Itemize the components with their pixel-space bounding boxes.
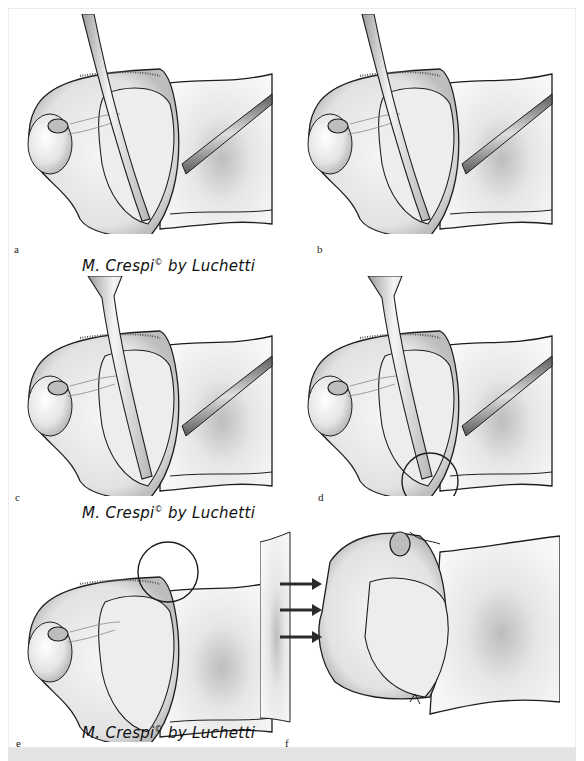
signature-row-2: M. Crespi© by Luchetti xyxy=(82,504,255,522)
signature-row-3: M. Crespi© by Luchetti xyxy=(82,724,255,742)
panel-e xyxy=(10,522,272,742)
sesamoid xyxy=(328,381,348,395)
copyright-mark: © xyxy=(155,505,163,514)
copyright-mark: © xyxy=(155,258,163,267)
illustration-b xyxy=(290,14,584,234)
panel-f xyxy=(260,522,522,742)
signature-name: M. Crespi xyxy=(82,504,155,522)
sesamoid xyxy=(48,381,68,395)
illustration-c xyxy=(10,276,310,496)
sesamoid xyxy=(328,119,348,133)
panel-label-e: e xyxy=(16,737,21,749)
panel-a xyxy=(10,14,272,234)
signature-name: M. Crespi xyxy=(82,724,155,742)
signature-name: M. Crespi xyxy=(82,257,155,275)
bottom-strip xyxy=(8,748,576,761)
panel-label-f: f xyxy=(285,737,289,749)
panel-label-d: d xyxy=(318,491,324,503)
panel-label-c: c xyxy=(15,491,20,503)
panel-label-b: b xyxy=(317,243,323,255)
copyright-mark: © xyxy=(155,725,163,734)
illustration-f xyxy=(260,522,560,742)
signature-row-1: M. Crespi© by Luchetti xyxy=(82,257,255,275)
panel-label-a: a xyxy=(14,243,19,255)
sesamoid xyxy=(390,532,410,556)
proximal-shaft-left xyxy=(260,532,290,722)
signature-suffix: by Luchetti xyxy=(168,257,255,275)
illustration-a xyxy=(10,14,310,234)
panel-b xyxy=(290,14,552,234)
sesamoid xyxy=(48,627,68,641)
panel-c xyxy=(10,276,272,496)
proximal-shaft xyxy=(430,536,560,714)
signature-suffix: by Luchetti xyxy=(168,504,255,522)
illustration-d xyxy=(290,276,584,496)
sesamoid xyxy=(48,119,68,133)
signature-suffix: by Luchetti xyxy=(168,724,255,742)
panel-d xyxy=(290,276,552,496)
